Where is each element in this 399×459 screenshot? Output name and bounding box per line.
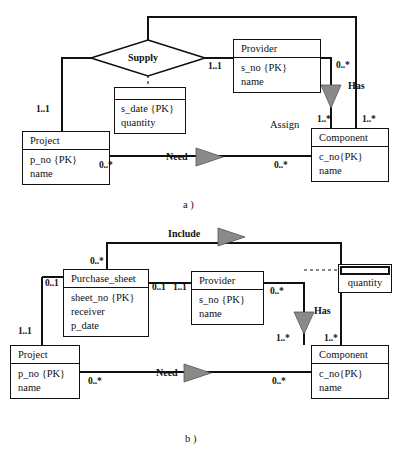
attribute: p_date bbox=[71, 319, 142, 333]
relationship-include-label-b: Include bbox=[168, 228, 200, 240]
entity-component-b[interactable]: Component c_no{PK} name bbox=[311, 345, 389, 399]
quantity-box-body: quantity bbox=[339, 275, 391, 292]
cardinality-project-sheet: 1..1 bbox=[18, 325, 31, 337]
entity-project-b-attributes: p_no {PK} name bbox=[11, 364, 79, 398]
cardinality-provider-sheet: 1..1 bbox=[173, 281, 186, 293]
entity-project-b[interactable]: Project p_no {PK} name bbox=[10, 345, 80, 399]
entity-purchase-sheet-b-title: Purchase_sheet bbox=[64, 270, 148, 287]
attribute: name bbox=[18, 381, 73, 395]
cardinality-component-need-b: 0..* bbox=[272, 375, 285, 387]
attribute: name bbox=[199, 307, 257, 321]
attribute: s_no {PK} bbox=[199, 293, 257, 307]
attribute: quantity bbox=[344, 276, 386, 290]
attribute: p_no {PK} bbox=[18, 367, 73, 381]
er-diagram-canvas: Supply Provider s_no {PK} name s_date {P… bbox=[0, 0, 399, 459]
cardinality-provider-has-b: 0..* bbox=[270, 285, 283, 297]
entity-provider-b[interactable]: Provider s_no {PK} name bbox=[191, 271, 264, 325]
entity-provider-b-title: Provider bbox=[192, 272, 263, 289]
figure-caption-b: b ) bbox=[185, 433, 196, 445]
quantity-box-header bbox=[340, 266, 390, 275]
attribute-box-quantity-b[interactable]: quantity bbox=[338, 264, 392, 293]
cardinality-project-need-b: 0..* bbox=[88, 375, 101, 387]
cardinality-sheet-provider: 0..1 bbox=[152, 281, 165, 293]
attribute: c_no{PK} bbox=[319, 367, 382, 381]
entity-component-b-attributes: c_no{PK} name bbox=[312, 364, 388, 398]
entity-purchase-sheet-b[interactable]: Purchase_sheet sheet_no {PK} receiver p_… bbox=[63, 269, 149, 337]
entity-project-b-title: Project bbox=[11, 346, 79, 363]
diagram-b: Include Purchase_sheet sheet_no {PK} rec… bbox=[0, 0, 399, 459]
cardinality-sheet-include: 0..* bbox=[90, 255, 103, 267]
attribute: sheet_no {PK} bbox=[71, 291, 142, 305]
attribute: receiver bbox=[71, 305, 142, 319]
attribute: name bbox=[319, 381, 382, 395]
relationship-has-label-b: Has bbox=[314, 305, 331, 317]
entity-provider-b-attributes: s_no {PK} name bbox=[192, 290, 263, 324]
cardinality-has-component-b: 1..* bbox=[276, 332, 289, 344]
relationship-need-label-b: Need bbox=[156, 367, 178, 379]
entity-purchase-sheet-b-attributes: sheet_no {PK} receiver p_date bbox=[64, 288, 148, 336]
cardinality-sheet-project-top: 0..1 bbox=[45, 277, 58, 289]
entity-component-b-title: Component bbox=[312, 346, 388, 363]
cardinality-component-include: 1..* bbox=[324, 332, 337, 344]
